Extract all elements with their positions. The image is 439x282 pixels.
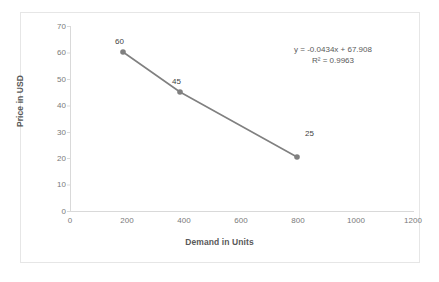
x-tick-label: 800: [278, 216, 318, 225]
data-point-marker[interactable]: [294, 154, 300, 160]
trendline-equation-text: y = -0.0434x + 67.908: [268, 44, 398, 55]
y-tick-label: 70: [44, 22, 66, 31]
x-axis-tick-labels: 0 200 400 600 800 1000 1200: [0, 216, 439, 228]
y-tick-label: 0: [44, 207, 66, 216]
x-tick-label: 200: [107, 216, 147, 225]
y-tick-marks: [67, 27, 70, 212]
data-point-label: 25: [305, 129, 314, 138]
data-point-marker[interactable]: [120, 49, 126, 55]
y-tick-label: 30: [44, 128, 66, 137]
x-tick-label: 600: [221, 216, 261, 225]
x-tick-label: 1000: [336, 216, 376, 225]
data-point-label: 45: [172, 77, 181, 86]
data-point-label: 60: [115, 37, 124, 46]
y-tick-label: 20: [44, 154, 66, 163]
r-squared-text: R² = 0.9963: [268, 55, 398, 66]
y-tick-label: 50: [44, 75, 66, 84]
x-tick-label: 0: [50, 216, 90, 225]
x-tick-label: 400: [164, 216, 204, 225]
regression-annotation: y = -0.0434x + 67.908 R² = 0.9963: [268, 44, 398, 66]
x-tick-label: 1200: [393, 216, 433, 225]
trendline: [123, 52, 297, 157]
y-tick-label: 10: [44, 180, 66, 189]
scatter-chart: 70 60 50 40 30 20 10 0 0 200 400 600 800…: [0, 0, 439, 282]
x-axis-title: Demand in Units: [0, 237, 439, 247]
y-axis-title: Price in USD: [15, 55, 25, 147]
y-tick-label: 60: [44, 48, 66, 57]
data-point-marker[interactable]: [177, 89, 183, 95]
y-tick-label: 40: [44, 101, 66, 110]
